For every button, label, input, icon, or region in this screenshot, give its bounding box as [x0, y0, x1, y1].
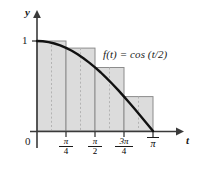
y-tick-label-1: 1: [22, 35, 28, 46]
x-axis-arrow: [176, 128, 184, 136]
x-axis-ticks: [66, 132, 153, 138]
fraction-numerator: π: [59, 137, 73, 146]
fraction-denominator: 4: [115, 147, 133, 156]
x-tick-label-pi-over-4: π 4: [59, 137, 73, 157]
x-axis-label: t: [186, 135, 189, 146]
y-axis-arrow: [33, 10, 41, 18]
x-tick-label-pi: π: [147, 137, 159, 149]
fraction-denominator: 4: [59, 147, 73, 156]
fraction-numerator: 3π: [115, 137, 133, 146]
x-tick-label-origin: 0: [25, 136, 31, 147]
fraction-denominator: 2: [88, 147, 102, 156]
pi-symbol: π: [150, 138, 155, 149]
fraction-numerator: π: [88, 137, 102, 146]
x-tick-label-pi-over-2: π 2: [88, 137, 102, 157]
y-axis-label: y: [25, 7, 30, 18]
riemann-rectangle: [66, 48, 95, 131]
function-annotation: f(t) = cos (t/2): [103, 49, 167, 60]
riemann-sum-figure: y t 1 0 π 4 π 2 3π 4 π f(t) = cos (t/2): [0, 0, 200, 169]
x-tick-label-3pi-over-4: 3π 4: [115, 137, 133, 157]
